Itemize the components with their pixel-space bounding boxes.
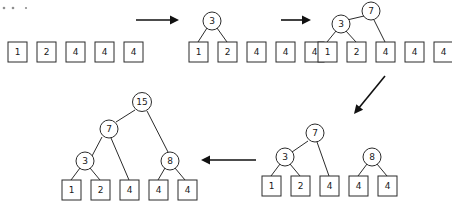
arrow-stage2-to-stage3 xyxy=(281,16,311,25)
speck-2-icon xyxy=(12,7,15,10)
leaf-value: 4 xyxy=(73,47,79,57)
leaf-value: 4 xyxy=(127,185,133,195)
node-value: 8 xyxy=(369,152,375,162)
leaf-node[interactable]: 4 xyxy=(320,176,339,196)
arrow-head-icon xyxy=(201,156,210,165)
node-value: 3 xyxy=(338,19,344,29)
node-value: 3 xyxy=(209,16,215,26)
leaf-node[interactable]: 4 xyxy=(178,180,197,200)
leaf-value: 4 xyxy=(385,181,391,191)
tree-edge xyxy=(346,31,356,42)
leaf-value: 4 xyxy=(156,185,162,195)
internal-node[interactable]: 7 xyxy=(100,120,118,138)
leaf-node[interactable]: 4 xyxy=(247,42,266,62)
leaf-node[interactable]: 2 xyxy=(37,42,56,62)
leaf-value: 4 xyxy=(185,185,191,195)
tree-edge xyxy=(374,20,385,42)
arrow-stage3-to-stage4 xyxy=(354,76,385,114)
leaf-value: 2 xyxy=(98,185,104,195)
tree-edge xyxy=(347,16,364,20)
leaf-node[interactable]: 2 xyxy=(291,176,310,196)
internal-node[interactable]: 3 xyxy=(76,152,94,170)
tree-edge xyxy=(327,31,336,42)
speck-3-icon xyxy=(25,7,27,9)
node-value: 7 xyxy=(312,128,318,138)
stage-group-1: 12444 xyxy=(8,42,143,62)
tree-edge xyxy=(217,28,227,42)
tree-edge xyxy=(198,28,207,42)
leaf-node[interactable]: 4 xyxy=(276,42,295,62)
arrow-stage4-to-stage5 xyxy=(201,156,256,165)
leaf-value: 4 xyxy=(102,47,108,57)
tree-edge xyxy=(317,142,329,176)
tree-edge xyxy=(292,141,308,152)
leaf-value: 2 xyxy=(354,47,360,57)
tree-edge xyxy=(90,168,100,180)
leaf-value: 1 xyxy=(325,47,331,57)
leaf-node[interactable]: 4 xyxy=(66,42,85,62)
arrow-head-icon xyxy=(170,16,179,25)
leaf-value: 2 xyxy=(298,181,304,191)
internal-node[interactable]: 3 xyxy=(276,148,294,166)
arrow-stage1-to-stage2 xyxy=(136,16,179,25)
leaf-node[interactable]: 4 xyxy=(349,176,368,196)
tree-edge xyxy=(290,164,300,176)
leaf-node[interactable]: 4 xyxy=(378,176,397,196)
stage-group-4: 12444378 xyxy=(262,124,397,196)
arrow-head-icon xyxy=(302,16,311,25)
node-value: 7 xyxy=(368,6,374,16)
internal-node[interactable]: 7 xyxy=(306,124,324,142)
leaf-value: 4 xyxy=(312,47,318,57)
tree-edge xyxy=(71,168,80,180)
tree-edge xyxy=(116,110,135,122)
tree-edge xyxy=(377,164,387,176)
node-value: 8 xyxy=(167,156,173,166)
leaf-node[interactable]: 4 xyxy=(149,180,168,200)
leaf-node[interactable]: 1 xyxy=(8,42,27,62)
leaf-node[interactable]: 4 xyxy=(120,180,139,200)
internal-node[interactable]: 8 xyxy=(363,148,381,166)
diagram-canvas: 124441244431244437124443781244437815 xyxy=(0,0,452,203)
internal-node[interactable]: 3 xyxy=(203,12,221,30)
leaf-value: 1 xyxy=(15,47,21,57)
internal-node[interactable]: 8 xyxy=(161,152,179,170)
leaf-node[interactable]: 1 xyxy=(318,42,337,62)
leaf-node[interactable]: 1 xyxy=(189,42,208,62)
leaf-value: 4 xyxy=(412,47,418,57)
internal-node[interactable]: 15 xyxy=(133,93,152,112)
node-value: 3 xyxy=(82,156,88,166)
leaf-value: 1 xyxy=(69,185,75,195)
leaf-value: 4 xyxy=(383,47,389,57)
leaf-value: 4 xyxy=(131,47,137,57)
leaf-value: 4 xyxy=(327,181,333,191)
speck-1-icon xyxy=(3,7,6,10)
arrow-shaft xyxy=(358,76,385,109)
tree-edge xyxy=(147,111,168,152)
leaf-value: 4 xyxy=(254,47,260,57)
tree-edge xyxy=(111,138,129,180)
stage-group-5: 1244437815 xyxy=(62,93,197,201)
leaf-node[interactable]: 1 xyxy=(262,176,281,196)
node-value: 3 xyxy=(282,152,288,162)
leaf-node[interactable]: 4 xyxy=(124,42,143,62)
node-value: 7 xyxy=(106,124,112,134)
leaf-node[interactable]: 4 xyxy=(405,42,424,62)
node-value: 15 xyxy=(136,97,147,107)
leaf-node[interactable]: 2 xyxy=(347,42,366,62)
tree-edge xyxy=(358,164,367,176)
internal-node[interactable]: 3 xyxy=(332,15,350,33)
internal-node[interactable]: 7 xyxy=(362,2,380,20)
leaf-value: 1 xyxy=(196,47,202,57)
stage-group-3: 1244437 xyxy=(318,2,452,62)
tree-edge xyxy=(158,168,165,180)
tree-edge xyxy=(175,168,185,180)
leaf-node[interactable]: 2 xyxy=(91,180,110,200)
leaf-node[interactable]: 4 xyxy=(434,42,452,62)
leaf-node[interactable]: 4 xyxy=(95,42,114,62)
leaf-node[interactable]: 1 xyxy=(62,180,81,200)
tree-edge xyxy=(92,137,102,156)
leaf-node[interactable]: 2 xyxy=(218,42,237,62)
leaf-node[interactable]: 4 xyxy=(376,42,395,62)
leaf-value: 2 xyxy=(44,47,50,57)
leaf-value: 2 xyxy=(225,47,231,57)
